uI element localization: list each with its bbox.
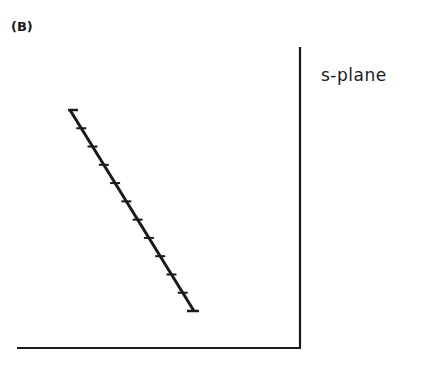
root-locus-line	[70, 110, 194, 311]
s-plane-diagram	[0, 0, 425, 372]
